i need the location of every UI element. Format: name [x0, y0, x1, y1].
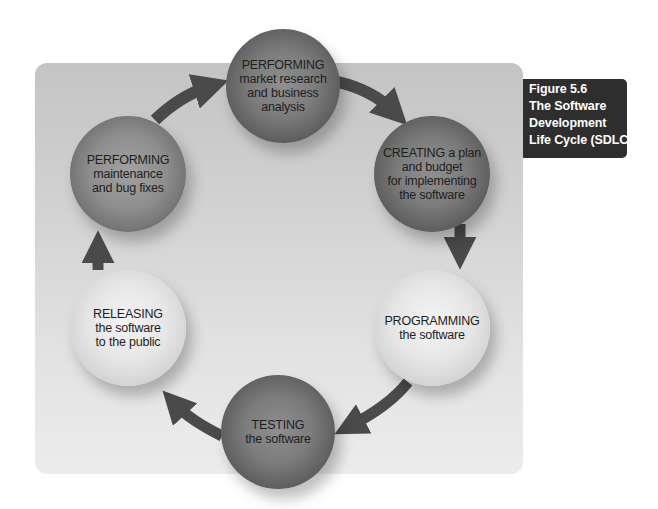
cycle-node-testing: TESTING the software [221, 375, 335, 489]
node-heading: CREATING a plan [383, 146, 481, 160]
arrow-maintenance-to-research [155, 87, 208, 120]
node-body: market research and business analysis [239, 72, 326, 114]
node-body: the software [399, 328, 465, 342]
caption-figure-number: Figure 5.6 [529, 81, 627, 98]
node-heading: PROGRAMMING [384, 314, 479, 328]
arrow-research-to-planning [338, 82, 392, 110]
cycle-node-releasing: RELEASING the software to the public [70, 270, 186, 386]
arrow-testing-to-releasing [176, 405, 222, 436]
cycle-node-programming: PROGRAMMING the software [374, 270, 490, 386]
node-heading: RELEASING [93, 307, 163, 321]
caption-title-line: Development [529, 115, 627, 132]
node-heading: PERFORMING [87, 153, 170, 167]
node-body: the software to the public [95, 321, 161, 349]
node-heading: PERFORMING [242, 58, 325, 72]
caption-title-line: The Software [529, 98, 627, 115]
node-heading: TESTING [252, 418, 305, 432]
cycle-node-research: PERFORMING market research and business … [226, 29, 340, 143]
node-body: maintenance and bug fixes [92, 167, 164, 195]
arrow-programming-to-testing [352, 382, 408, 425]
cycle-node-maintenance: PERFORMING maintenance and bug fixes [70, 116, 186, 232]
node-body: the software [245, 432, 311, 446]
cycle-node-planning: CREATING a plan and budget for implement… [374, 116, 490, 232]
figure-caption: Figure 5.6 The Software Development Life… [523, 79, 627, 158]
caption-title-line: Life Cycle (SDLC) [529, 132, 627, 149]
node-body: and budget for implementing the software [387, 160, 476, 202]
